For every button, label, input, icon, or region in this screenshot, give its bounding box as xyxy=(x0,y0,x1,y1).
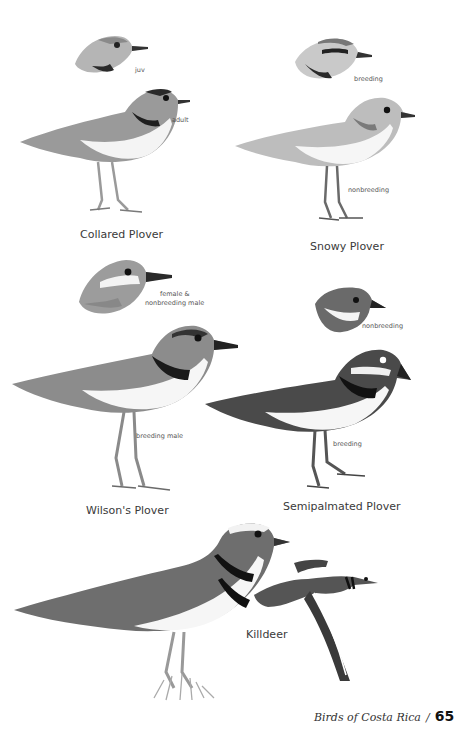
wilsons-plover-female-label-line1: female & xyxy=(160,290,190,298)
title-separator: / xyxy=(426,711,430,724)
snowy-plover-nonbreeding-label: nonbreeding xyxy=(348,186,389,194)
semipalmated-plover-name: Semipalmated Plover xyxy=(283,500,401,513)
semipalmated-plover-nonbreeding-label: nonbreeding xyxy=(362,322,403,330)
collared-plover-adult-illustration xyxy=(20,82,190,217)
snowy-plover-nonbreeding-illustration xyxy=(235,90,415,230)
killdeer-standing-illustration xyxy=(14,512,290,702)
snowy-plover-name: Snowy Plover xyxy=(310,240,384,253)
page-number: 65 xyxy=(435,708,454,724)
collared-plover-adult-label: adult xyxy=(172,116,189,124)
collared-plover-name: Collared Plover xyxy=(80,228,163,241)
wilsons-plover-female-label-line2: nonbreeding male xyxy=(145,299,204,307)
killdeer-name: Killdeer xyxy=(246,628,287,641)
wilsons-plover-breeding-male-label: breeding male xyxy=(136,432,183,440)
page-footer: Birds of Costa Rica / 65 xyxy=(314,706,454,725)
wilsons-plover-breeding-male-illustration xyxy=(12,318,232,498)
collared-plover-juv-label: juv xyxy=(135,66,145,74)
semipalmated-plover-breeding-illustration xyxy=(205,346,410,496)
semipalmated-plover-breeding-label: breeding xyxy=(333,440,362,448)
killdeer-flying-illustration xyxy=(254,555,384,685)
snowy-plover-breeding-label: breeding xyxy=(354,75,383,83)
book-title: Birds of Costa Rica xyxy=(314,711,421,724)
wilsons-plover-female-illustration xyxy=(74,254,174,319)
